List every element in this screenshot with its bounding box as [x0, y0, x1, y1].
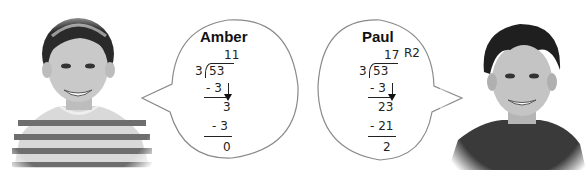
girl-portrait-icon: [0, 8, 158, 168]
divisor: 3: [359, 64, 367, 79]
subtraction-rule: [368, 136, 396, 137]
boy-portrait-icon: [440, 10, 586, 170]
subtraction-rule: [204, 97, 226, 98]
amber-photo: [0, 8, 158, 168]
step-result-1: 3: [223, 100, 231, 115]
final-remainder: 2: [383, 140, 391, 155]
subtraction-rule: [368, 97, 390, 98]
step-subtract-1: - 3: [206, 81, 222, 96]
quotient: 17: [384, 48, 399, 63]
student-name: Paul: [362, 28, 394, 45]
step-subtract-1: - 3: [370, 81, 386, 96]
final-remainder: 0: [223, 140, 231, 155]
paul-photo: [440, 10, 586, 170]
subtraction-rule: [204, 136, 232, 137]
long-division-work: 11 3 53 - 3 3 - 3 0: [192, 48, 282, 163]
student-name: Amber: [200, 28, 248, 45]
amber-speech-bubble: Amber 11 3 53 - 3 3 - 3 0: [140, 8, 310, 166]
step-subtract-2: - 21: [370, 119, 393, 134]
step-subtract-2: - 3: [212, 119, 228, 134]
dividend: 53: [373, 64, 388, 79]
remainder-label: R2: [404, 46, 420, 61]
divisor: 3: [195, 64, 203, 79]
step-result-1: 23: [378, 100, 393, 115]
dividend: 53: [209, 64, 224, 79]
quotient: 11: [224, 48, 239, 63]
